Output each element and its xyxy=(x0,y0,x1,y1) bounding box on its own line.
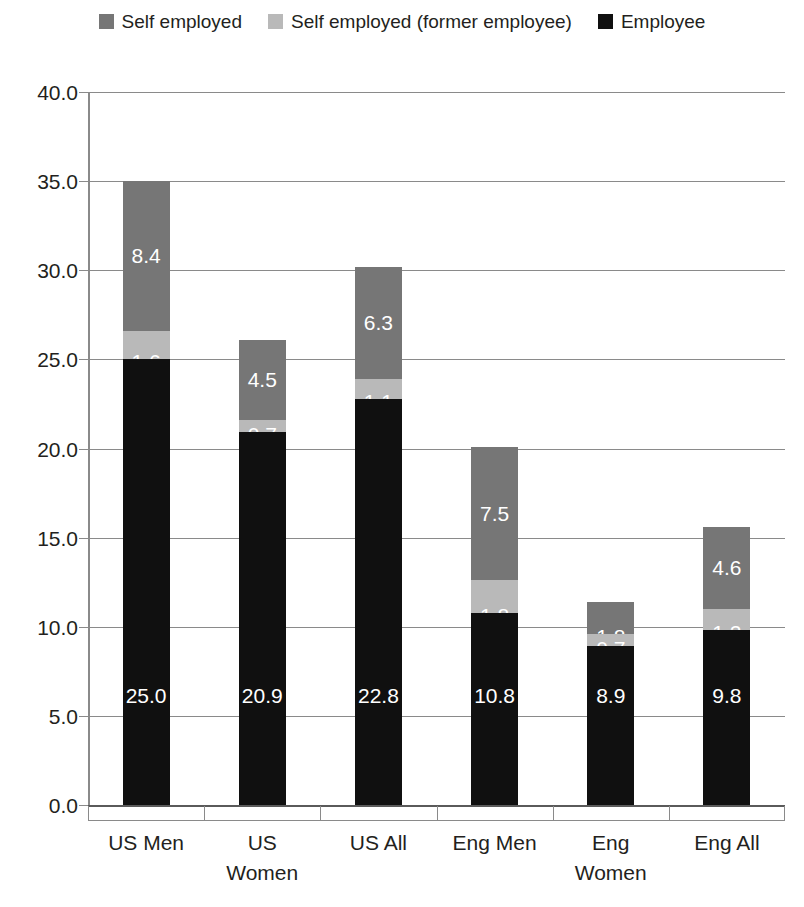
y-axis-tick-label: 40.0 xyxy=(2,82,78,103)
x-axis-label-line1: US Men xyxy=(108,831,184,854)
x-axis-tick-label: EngWomen xyxy=(553,828,669,888)
x-axis-tick-mark xyxy=(437,806,438,821)
bar-value-label: 4.5 xyxy=(239,369,286,390)
legend-item-label: Self employed xyxy=(122,12,242,31)
x-axis-tick-mark xyxy=(784,806,785,821)
y-axis-tick-mark xyxy=(79,359,88,360)
legend-item: Employee xyxy=(598,12,706,31)
x-axis-label-line1: Eng Men xyxy=(453,831,537,854)
bar-value-label: 9.8 xyxy=(703,685,750,706)
bar-stack[interactable]: 4.61.29.8 xyxy=(703,527,750,805)
gridline xyxy=(88,270,785,271)
y-axis-tick-mark xyxy=(79,92,88,93)
bar-stack[interactable]: 8.41.625.0 xyxy=(123,181,170,805)
bar-segment[interactable]: 1.6 xyxy=(123,331,170,360)
bar-value-label: 8.4 xyxy=(123,245,170,266)
x-axis-tick-mark xyxy=(669,806,670,821)
bar-value-label: 25.0 xyxy=(123,685,170,706)
x-axis-label-line1: Eng xyxy=(592,831,629,854)
bar-value-label: 6.3 xyxy=(355,312,402,333)
legend-item: Self employed (former employee) xyxy=(268,12,572,31)
x-axis-tick-mark xyxy=(204,806,205,821)
bar-segment[interactable]: 6.3 xyxy=(355,267,402,379)
bar-segment[interactable]: 8.4 xyxy=(123,181,170,331)
x-axis-tick-label: Eng Men xyxy=(437,828,553,858)
gridline xyxy=(88,181,785,182)
x-axis-label-line1: US All xyxy=(350,831,407,854)
y-axis-tick-mark xyxy=(79,270,88,271)
y-axis-tick-mark xyxy=(79,716,88,717)
legend-swatch-employee xyxy=(598,14,613,29)
bar-segment[interactable]: 4.5 xyxy=(239,340,286,420)
bar-segment[interactable]: 8.9 xyxy=(587,646,634,805)
y-axis-tick-mark xyxy=(79,627,88,628)
x-axis-line xyxy=(88,820,785,821)
bar-segment[interactable]: 22.8 xyxy=(355,399,402,805)
y-axis-tick-mark xyxy=(79,181,88,182)
y-axis-labels: 0.05.010.015.020.025.030.035.040.0 xyxy=(0,92,78,805)
y-axis-tick-label: 35.0 xyxy=(2,171,78,192)
bar-value-label: 22.8 xyxy=(355,685,402,706)
bar-stack[interactable]: 4.50.720.9 xyxy=(239,340,286,805)
chart-root: Self employedSelf employed (former emplo… xyxy=(0,0,804,907)
x-axis-label-line2: Women xyxy=(553,858,669,888)
x-axis-label-line2: Women xyxy=(204,858,320,888)
y-axis-tick-label: 10.0 xyxy=(2,616,78,637)
bar-value-label: 20.9 xyxy=(239,685,286,706)
chart-legend: Self employedSelf employed (former emplo… xyxy=(0,6,804,36)
x-axis-label-line1: Eng All xyxy=(694,831,759,854)
bar-value-label: 4.6 xyxy=(703,557,750,578)
gridline xyxy=(88,627,785,628)
bar-segment[interactable]: 1.8 xyxy=(587,602,634,634)
bar-segment[interactable]: 1.8 xyxy=(471,580,518,612)
x-axis-tick-mark xyxy=(553,806,554,821)
bar-segment[interactable]: 7.5 xyxy=(471,447,518,581)
bar-segment[interactable]: 0.7 xyxy=(239,420,286,432)
x-axis-tick-label: US Men xyxy=(88,828,204,858)
y-axis-tick-label: 20.0 xyxy=(2,438,78,459)
bar-segment[interactable]: 1.2 xyxy=(703,609,750,630)
legend-item-label: Employee xyxy=(621,12,706,31)
y-axis-tick-label: 25.0 xyxy=(2,349,78,370)
gridline xyxy=(88,716,785,717)
gridline xyxy=(88,92,785,93)
x-axis-tick-label: USWomen xyxy=(204,828,320,888)
legend-item-label: Self employed (former employee) xyxy=(291,12,572,31)
bar-stack[interactable]: 1.80.78.9 xyxy=(587,602,634,805)
legend-swatch-self-employed-former xyxy=(268,14,283,29)
gridline xyxy=(88,359,785,360)
x-axis-label-line1: US xyxy=(248,831,277,854)
gridline xyxy=(88,538,785,539)
bar-value-label: 10.8 xyxy=(471,685,518,706)
bar-segment[interactable]: 9.8 xyxy=(703,630,750,805)
plot-area: 8.41.625.04.50.720.96.31.122.87.51.810.8… xyxy=(88,92,785,805)
bar-value-label: 7.5 xyxy=(471,503,518,524)
bar-value-label: 8.9 xyxy=(587,685,634,706)
bar-stack[interactable]: 7.51.810.8 xyxy=(471,447,518,805)
y-axis-tick-mark xyxy=(79,805,88,806)
x-axis-labels: US MenUSWomenUS AllEng MenEngWomenEng Al… xyxy=(88,828,785,900)
bar-segment[interactable]: 20.9 xyxy=(239,432,286,805)
gridline xyxy=(88,449,785,450)
y-axis-tick-mark xyxy=(79,449,88,450)
legend-swatch-self-employed xyxy=(99,14,114,29)
y-axis-tick-label: 5.0 xyxy=(2,705,78,726)
x-axis-tick-label: Eng All xyxy=(669,828,785,858)
bar-stack[interactable]: 6.31.122.8 xyxy=(355,267,402,805)
x-axis-tick-label: US All xyxy=(320,828,436,858)
y-axis-tick-mark xyxy=(79,538,88,539)
bar-segment[interactable]: 10.8 xyxy=(471,613,518,806)
bar-segment[interactable]: 1.1 xyxy=(355,379,402,399)
y-axis-tick-label: 15.0 xyxy=(2,527,78,548)
bar-segment[interactable]: 4.6 xyxy=(703,527,750,609)
legend-item: Self employed xyxy=(99,12,242,31)
bar-segment[interactable]: 0.7 xyxy=(587,634,634,646)
y-axis-tick-label: 30.0 xyxy=(2,260,78,281)
y-axis-tick-label: 0.0 xyxy=(2,795,78,816)
x-axis-tick-mark xyxy=(88,806,89,821)
x-axis-tick-mark xyxy=(320,806,321,821)
bar-segment[interactable]: 25.0 xyxy=(123,359,170,805)
